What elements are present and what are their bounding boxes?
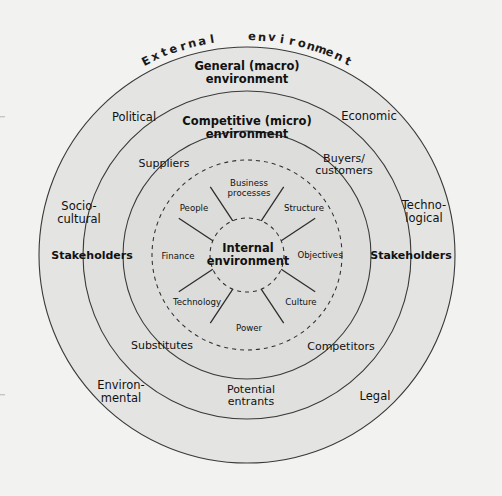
external-heading-char: r bbox=[288, 33, 296, 48]
external-environment-heading: Externalenvironment bbox=[0, 0, 502, 496]
diagram-canvas: Externalenvironment General (macro)envir… bbox=[0, 0, 502, 496]
external-heading-char: t bbox=[342, 53, 353, 68]
external-heading-char: e bbox=[167, 41, 179, 57]
external-heading-char: v bbox=[267, 30, 276, 45]
external-heading-char: a bbox=[197, 33, 207, 48]
external-heading-char: n bbox=[257, 29, 266, 44]
external-heading-char: e bbox=[248, 29, 256, 43]
external-heading-char: i bbox=[279, 32, 285, 46]
external-heading-char: l bbox=[209, 32, 215, 46]
